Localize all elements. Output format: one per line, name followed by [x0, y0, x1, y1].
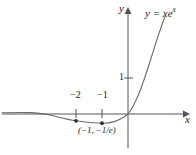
function-graph-figure: y x y = xex −2 −1 1 (−1, −1/e)	[0, 0, 196, 155]
point-at-neg2	[74, 119, 78, 123]
curve-equation-label: y = xex	[145, 6, 176, 19]
y-tick-label-one: 1	[119, 72, 124, 82]
x-tick-label-neg1: −1	[97, 90, 108, 100]
y-axis-arrowhead	[125, 7, 132, 14]
minimum-point-annotation: (−1, −1/e)	[78, 126, 116, 135]
curve-equation-base: y = xe	[145, 7, 173, 19]
x-tick-label-neg2: −2	[70, 90, 81, 100]
function-curve	[2, 17, 165, 124]
x-axis-label: x	[185, 114, 190, 125]
y-axis-label: y	[119, 3, 124, 14]
curve-equation-exponent: x	[173, 5, 176, 14]
